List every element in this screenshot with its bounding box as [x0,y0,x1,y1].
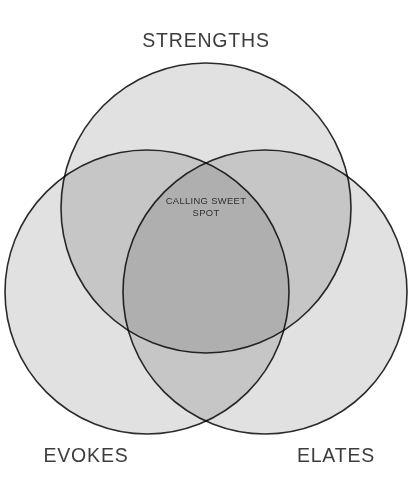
label-elates: ELATES [297,444,375,466]
label-strengths: STRENGTHS [142,29,269,51]
label-calling-sweet-spot-line1: CALLING SWEET [166,195,247,206]
label-evokes: EVOKES [44,444,129,466]
venn-diagram-canvas: STRENGTHS EVOKES ELATES CALLING SWEET SP… [0,0,413,483]
circle-elates[interactable] [123,150,407,434]
venn-diagram: STRENGTHS EVOKES ELATES CALLING SWEET SP… [0,0,413,483]
label-calling-sweet-spot-line2: SPOT [193,207,220,218]
